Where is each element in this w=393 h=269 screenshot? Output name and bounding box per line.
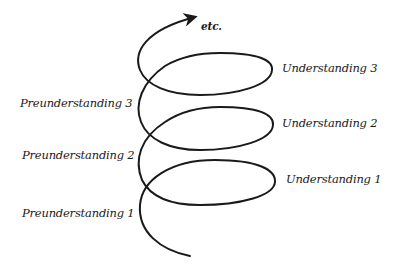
understanding-2-label: Understanding 2: [282, 116, 377, 130]
understanding-3-label: Understanding 3: [282, 61, 377, 75]
etc-label: etc.: [201, 20, 222, 32]
hermeneutic-spiral-diagram: etc. Understanding 3 Understanding 2 Und…: [0, 0, 393, 269]
preunderstanding-2-label: Preunderstanding 2: [22, 148, 134, 162]
understanding-1-label: Understanding 1: [286, 172, 381, 186]
preunderstanding-3-label: Preunderstanding 3: [20, 96, 132, 110]
preunderstanding-1-label: Preunderstanding 1: [22, 206, 134, 220]
spiral-graphic: [0, 0, 393, 269]
spiral-path: [138, 17, 275, 256]
